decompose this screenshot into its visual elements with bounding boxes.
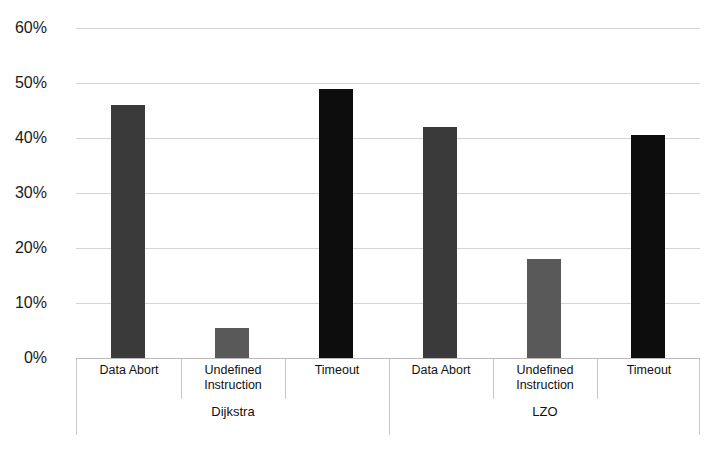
category-label-line2: Instruction (181, 378, 285, 393)
bar (215, 328, 249, 358)
y-axis-tick-label: 0% (0, 350, 47, 366)
category-axis: Data AbortUndefinedInstructionTimeoutDat… (76, 359, 700, 399)
category-label-line1: Data Abort (99, 363, 158, 377)
category-label-line1: Undefined (517, 363, 574, 377)
category-label: Data Abort (77, 359, 181, 399)
category-label: UndefinedInstruction (181, 359, 285, 399)
category-label-line1: Timeout (315, 363, 360, 377)
group-label: LZO (389, 399, 701, 435)
gridline (76, 303, 700, 304)
bar-chart: 60%50%40%30%20%10%0% Data AbortUndefined… (0, 0, 725, 452)
axis-divider (181, 359, 182, 399)
bar (111, 105, 145, 358)
category-label: Timeout (597, 359, 701, 399)
gridline (76, 138, 700, 139)
bar (631, 135, 665, 358)
y-axis-tick-label: 50% (0, 75, 47, 91)
category-label: UndefinedInstruction (493, 359, 597, 399)
category-label: Data Abort (389, 359, 493, 399)
gridline (76, 193, 700, 194)
axis-divider (597, 359, 598, 399)
category-label-line2: Instruction (493, 378, 597, 393)
chart-title-cropped (0, 0, 725, 16)
plot-area: 60%50%40%30%20%10%0% (76, 28, 700, 358)
axis-divider (285, 359, 286, 399)
category-label-line1: Undefined (205, 363, 262, 377)
group-axis: DijkstraLZO (76, 399, 700, 435)
axis-divider (493, 359, 494, 399)
axis-divider (389, 359, 390, 399)
bar (423, 127, 457, 358)
category-label-line1: Data Abort (411, 363, 470, 377)
y-axis-tick-label: 10% (0, 295, 47, 311)
bar (319, 89, 353, 359)
bar (527, 259, 561, 358)
y-axis-tick-label: 20% (0, 240, 47, 256)
y-axis-tick-label: 60% (0, 20, 47, 36)
group-axis-divider (389, 399, 390, 435)
gridline (76, 28, 700, 29)
gridline (76, 248, 700, 249)
gridline (76, 83, 700, 84)
category-label-line1: Timeout (627, 363, 672, 377)
category-label: Timeout (285, 359, 389, 399)
group-label: Dijkstra (77, 399, 389, 435)
y-axis-tick-label: 30% (0, 185, 47, 201)
y-axis-tick-label: 40% (0, 130, 47, 146)
